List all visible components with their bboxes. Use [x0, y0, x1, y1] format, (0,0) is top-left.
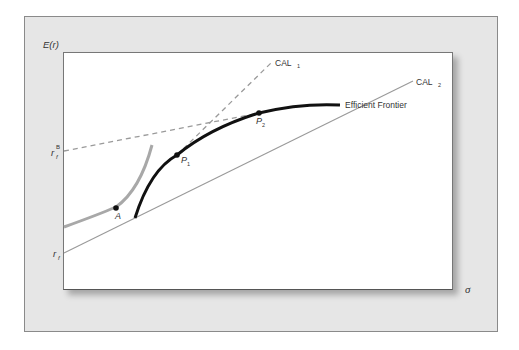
point-a-marker — [113, 205, 119, 211]
efficient-frontier-curve — [135, 105, 340, 218]
rf-sub: f — [58, 255, 61, 261]
lending-frontier-curve — [64, 145, 152, 227]
cal2-label: CAL — [416, 77, 433, 87]
point-p1-marker — [174, 152, 180, 158]
cal1-sub: 1 — [297, 63, 300, 69]
cal1-line — [177, 62, 272, 155]
p2-sub: 2 — [262, 122, 265, 128]
chart-svg: E(r) σ r B f r f CAL 1 CAL 2 Efficient F… — [0, 0, 519, 350]
cal2-sub: 2 — [438, 82, 441, 88]
cal1-label: CAL — [275, 58, 292, 68]
rfb-sup: B — [56, 144, 60, 150]
rf-label: r — [53, 248, 57, 259]
frontier-label: Efficient Frontier — [345, 100, 407, 110]
rfb-label: r — [51, 147, 55, 158]
y-axis-label: E(r) — [43, 39, 59, 50]
borrowing-dashed-line — [64, 113, 259, 151]
rfb-sub: f — [56, 154, 59, 160]
p1-sub: 1 — [187, 161, 190, 167]
x-axis-label: σ — [465, 283, 471, 295]
point-p2-marker — [256, 110, 262, 116]
point-a-label: A — [114, 211, 121, 221]
